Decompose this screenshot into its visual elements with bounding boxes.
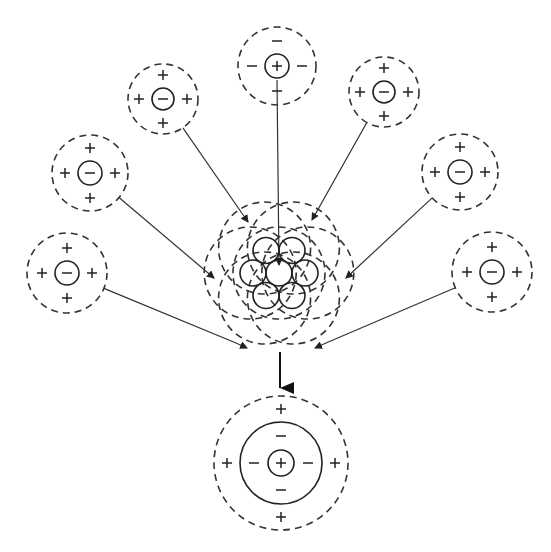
clustered-ion [253,283,279,309]
plus-sign [158,118,168,128]
plus-sign [379,111,389,121]
surrounding-ions [27,27,532,313]
plus-sign [60,168,70,178]
ion-left-mid [52,135,128,211]
plus-sign [272,61,282,71]
plus-sign [355,87,365,97]
plus-sign [222,458,232,468]
plus-sign [158,70,168,80]
arrow-left-low [104,288,247,348]
plus-sign [182,94,192,104]
plus-sign [85,193,95,203]
arrow-upper-right [312,123,367,220]
plus-sign [276,458,286,468]
plus-sign [379,63,389,73]
arrow-left-mid [119,198,214,278]
clustered-ion [279,283,305,309]
plus-sign [455,192,465,202]
plus-sign [276,512,286,522]
plus-sign [62,243,72,253]
plus-sign [37,268,47,278]
plus-sign [512,267,522,277]
arrow-right-mid [346,198,432,278]
plus-sign [455,142,465,152]
ion-left-low [27,233,107,313]
plus-sign [85,143,95,153]
ion-upper-left [128,64,198,134]
plus-sign [276,404,286,414]
plus-sign [480,167,490,177]
arrow-upper-left [183,128,248,222]
resulting-ion-atmosphere [214,396,348,530]
plus-sign [487,292,497,302]
ion-upper-right [349,57,419,127]
diagram-canvas [0,0,551,552]
ion-right-mid [422,134,498,210]
plus-sign [87,268,97,278]
plus-sign [62,293,72,303]
clustered-ion [253,237,279,263]
ionic-atmosphere-diagram [0,0,551,552]
plus-sign [487,242,497,252]
plus-sign [430,167,440,177]
clustered-ion [279,237,305,263]
plus-sign [330,458,340,468]
plus-sign [462,267,472,277]
plus-sign [134,94,144,104]
ion-right-low [452,232,532,312]
arrow-right-low [315,288,455,348]
plus-sign [110,168,120,178]
plus-sign [403,87,413,97]
